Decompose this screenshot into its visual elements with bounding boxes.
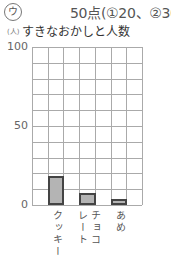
- chart-title: すきなおかしと人数: [22, 22, 130, 39]
- grid-line-vertical: [111, 47, 112, 205]
- y-tick-100: 100: [0, 40, 28, 53]
- grid-line-vertical: [79, 47, 80, 205]
- y-tick-50: 50: [0, 119, 28, 132]
- chart-grid: [32, 47, 142, 205]
- bar-cookie: [48, 176, 65, 205]
- grid-line-vertical: [95, 47, 96, 205]
- grid-line-vertical: [142, 47, 143, 205]
- category-label-candy: あめ: [112, 210, 127, 234]
- y-tick-0: 0: [0, 198, 28, 211]
- category-label-chocolate-1: チョコ: [87, 210, 102, 246]
- category-label-chocolate-2: レート: [74, 210, 89, 246]
- category-label-cookie: クッキー: [49, 210, 64, 258]
- grid-line-horizontal: [32, 205, 142, 206]
- grid-line-vertical: [32, 47, 33, 205]
- bar-chocolate: [79, 193, 96, 205]
- grid-line-vertical: [126, 47, 127, 205]
- section-marker: ウ: [4, 3, 22, 21]
- bar-candy: [111, 199, 128, 205]
- score-label: 50点(①20、②30): [70, 2, 171, 22]
- y-axis-unit: (人): [7, 26, 19, 36]
